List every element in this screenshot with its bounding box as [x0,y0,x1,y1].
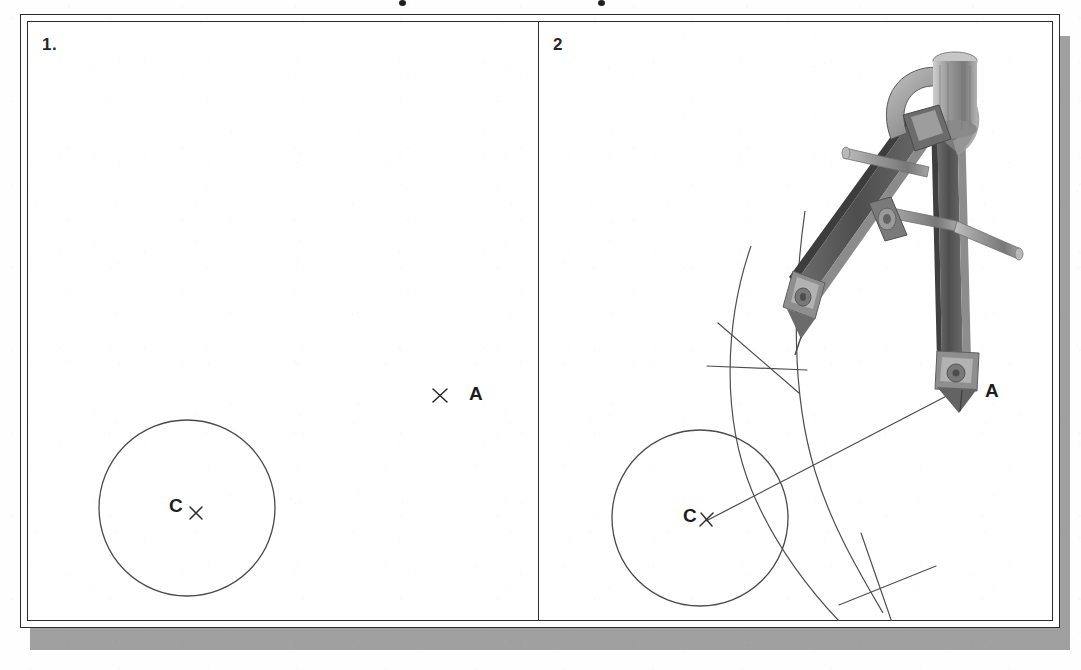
bleed-dot-2 [598,0,605,6]
label-a-panel-two: A [985,380,999,402]
line-c-to-a [706,388,962,521]
circle-c [99,420,275,596]
panel-one: 1. C A [28,21,538,621]
label-a-panel-one: A [469,383,483,405]
top-caption-bleed [0,0,1081,12]
upper-intersection-marks [707,323,807,393]
panel-two: 2 [539,21,1053,621]
bleed-dot-1 [399,0,406,6]
center-mark-x-icon [700,513,713,526]
point-a-mark-x-icon [433,389,447,402]
panel-two-drawing [539,21,1053,621]
pencil-scuff [791,277,803,281]
center-mark-x-icon [190,507,202,519]
panel-one-drawing [28,21,538,621]
circle-c [612,430,788,606]
label-c-panel-one: C [169,495,183,517]
figure-page: 1. C A 2 [0,0,1081,670]
lower-intersection-marks [839,533,936,621]
label-c-panel-two: C [683,505,697,527]
arc-from-a [730,246,839,621]
point-a-needle-mark-icon [953,380,969,396]
arc-from-c [796,211,883,613]
